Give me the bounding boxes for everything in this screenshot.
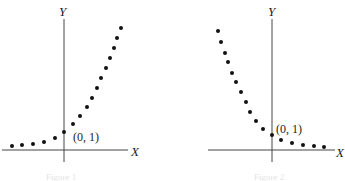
data-point (244, 100, 248, 104)
data-point (20, 143, 24, 147)
data-point (71, 122, 75, 126)
data-point (104, 66, 108, 70)
data-point (312, 144, 316, 148)
data-point (279, 138, 283, 142)
y-axis-label: Y (59, 4, 68, 19)
figure-caption: Figure 1 (46, 172, 76, 181)
data-point (234, 80, 238, 84)
data-point (95, 86, 99, 90)
data-point (270, 133, 274, 137)
data-point (42, 140, 46, 144)
data-point (322, 145, 326, 149)
data-point (108, 56, 112, 60)
data-point (254, 119, 258, 123)
y-axis-label: Y (268, 4, 277, 19)
data-point (115, 36, 119, 40)
data-points (10, 26, 123, 148)
data-point (226, 60, 230, 64)
data-point (78, 114, 82, 118)
data-points (216, 29, 326, 149)
data-point (216, 29, 220, 33)
data-point (261, 127, 265, 131)
data-point (90, 96, 94, 100)
figure-caption: Figure 2 (254, 172, 284, 181)
data-point (53, 136, 57, 140)
data-point (290, 141, 294, 145)
point-annotation: (0, 1) (276, 122, 302, 136)
chart-1: X Y (0, 1) Figure 1 (2, 4, 140, 181)
x-axis-label: X (335, 145, 345, 160)
point-annotation: (0, 1) (73, 130, 99, 144)
data-point (301, 143, 305, 147)
data-point (119, 26, 123, 30)
data-point (219, 40, 223, 44)
data-point (10, 144, 14, 148)
chart-2: X Y (0, 1) Figure 2 (208, 4, 345, 181)
data-point (62, 130, 66, 134)
data-point (248, 110, 252, 114)
data-point (239, 90, 243, 94)
data-point (31, 142, 35, 146)
x-axis-label: X (130, 144, 140, 159)
data-point (112, 46, 116, 50)
data-point (230, 71, 234, 75)
data-point (223, 51, 227, 55)
figure-canvas: X Y (0, 1) Figure 1 X Y (0, 1) Figure 2 (0, 0, 345, 181)
data-point (99, 76, 103, 80)
data-point (85, 105, 89, 109)
